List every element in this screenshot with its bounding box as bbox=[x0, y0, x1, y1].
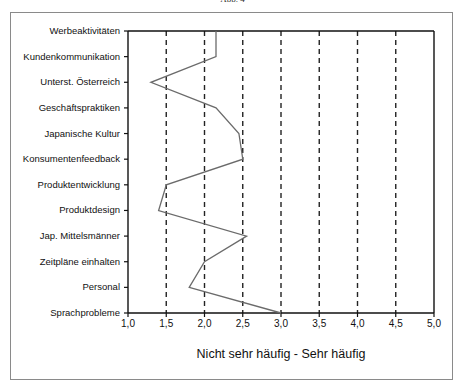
y-category-label: Personal bbox=[83, 281, 121, 292]
x-axis-ticks: 1,01,52,02,53,03,54,04,55,0 bbox=[121, 313, 441, 329]
x-tick-label: 5,0 bbox=[427, 318, 441, 329]
y-category-label: Konsumentenfeedback bbox=[23, 153, 120, 164]
y-category-label: Japanische Kultur bbox=[44, 128, 120, 139]
y-category-label: Produktdesign bbox=[59, 204, 120, 215]
x-tick-label: 3,5 bbox=[312, 318, 326, 329]
y-category-label: Jap. Mittelsmänner bbox=[40, 230, 120, 241]
y-axis-categories: WerbeaktivitätenKundenkommunikationUnter… bbox=[23, 25, 128, 318]
y-category-label: Werbeaktivitäten bbox=[49, 25, 120, 36]
profile-series-line bbox=[151, 31, 281, 313]
y-category-label: Zeitpläne einhalten bbox=[40, 256, 120, 267]
x-tick-label: 1,5 bbox=[159, 318, 173, 329]
x-tick-label: 2,5 bbox=[236, 318, 250, 329]
x-axis-label: Nicht sehr häufig - Sehr häufig bbox=[128, 347, 434, 361]
profile-line-chart: WerbeaktivitätenKundenkommunikationUnter… bbox=[0, 0, 465, 384]
x-tick-label: 2,0 bbox=[198, 318, 212, 329]
x-tick-label: 3,0 bbox=[274, 318, 288, 329]
y-category-label: Unterst. Österreich bbox=[40, 76, 120, 87]
y-category-label: Kundenkommunikation bbox=[23, 51, 120, 62]
x-tick-label: 1,0 bbox=[121, 318, 135, 329]
y-category-label: Produktentwicklung bbox=[38, 179, 120, 190]
x-tick-label: 4,5 bbox=[389, 318, 403, 329]
y-category-label: Geschäftspraktiken bbox=[39, 102, 120, 113]
vertical-gridlines bbox=[166, 31, 396, 313]
y-category-label: Sprachprobleme bbox=[50, 307, 120, 318]
x-tick-label: 4,0 bbox=[351, 318, 365, 329]
